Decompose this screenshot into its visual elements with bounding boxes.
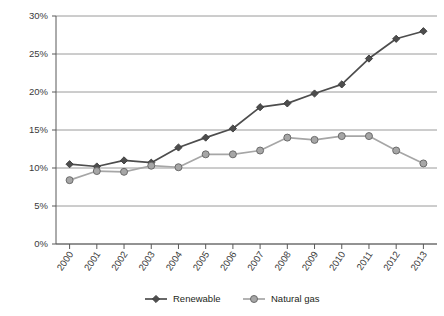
data-point-marker xyxy=(229,151,236,158)
legend-marker xyxy=(152,295,159,302)
legend-item-natural-gas[interactable]: Natural gas xyxy=(243,293,320,304)
data-point-marker xyxy=(202,134,209,141)
x-axis-tick-label: 2009 xyxy=(299,249,320,273)
data-point-marker xyxy=(420,160,427,167)
data-point-marker xyxy=(202,151,209,158)
data-point-marker xyxy=(148,162,155,169)
x-axis-tick-labels: 2000200120022003200420052006200720082009… xyxy=(54,249,429,273)
data-point-marker xyxy=(93,168,100,175)
y-axis-tick-label: 20% xyxy=(29,86,49,97)
data-point-marker xyxy=(311,136,318,143)
x-axis-tick-label: 2000 xyxy=(54,249,75,273)
data-point-marker xyxy=(175,164,182,171)
y-axis-ticks xyxy=(52,16,56,244)
y-axis-tick-label: 15% xyxy=(29,124,49,135)
x-axis-tick-label: 2008 xyxy=(272,249,293,273)
data-point-marker xyxy=(175,144,182,151)
y-axis-tick-label: 30% xyxy=(29,10,49,21)
x-axis-tick-label: 2012 xyxy=(381,249,402,273)
data-point-marker xyxy=(284,100,291,107)
x-axis-tick-label: 2007 xyxy=(245,249,266,273)
series-line xyxy=(70,31,424,166)
line-chart: 0%5%10%15%20%25%30% 20002001200220032004… xyxy=(0,0,444,316)
data-point-marker xyxy=(393,147,400,154)
x-axis-tick-label: 2013 xyxy=(408,249,429,273)
data-point-marker xyxy=(121,168,128,175)
data-point-marker xyxy=(311,90,318,97)
y-axis-tick-label: 10% xyxy=(29,162,49,173)
legend-item-renewable[interactable]: Renewable xyxy=(145,293,221,304)
x-axis-tick-label: 2004 xyxy=(163,249,184,273)
legend-label: Renewable xyxy=(173,293,221,304)
x-axis-ticks xyxy=(70,244,424,249)
series-layer xyxy=(66,28,427,184)
x-axis-tick-label: 2005 xyxy=(190,249,211,273)
chart-container: 0%5%10%15%20%25%30% 20002001200220032004… xyxy=(0,0,444,316)
data-point-marker xyxy=(257,147,264,154)
x-axis-tick-label: 2001 xyxy=(82,249,103,273)
data-point-marker xyxy=(120,157,127,164)
data-point-marker xyxy=(66,177,73,184)
legend-label: Natural gas xyxy=(271,293,320,304)
data-point-marker xyxy=(66,161,73,168)
x-axis-tick-label: 2002 xyxy=(109,249,130,273)
series-renewable xyxy=(66,28,427,170)
y-axis-tick-label: 0% xyxy=(34,238,48,249)
x-axis-tick-label: 2011 xyxy=(354,249,375,272)
y-axis-group: 0%5%10%15%20%25%30% xyxy=(29,10,56,249)
y-axis-tick-label: 5% xyxy=(34,200,48,211)
data-point-marker xyxy=(284,134,291,141)
x-axis-tick-label: 2003 xyxy=(136,249,157,273)
data-point-marker xyxy=(338,133,345,140)
series-natural-gas xyxy=(66,133,427,184)
legend-marker xyxy=(251,296,258,303)
x-axis-tick-label: 2006 xyxy=(218,249,239,273)
y-axis-tick-label: 25% xyxy=(29,48,49,59)
x-axis-tick-label: 2010 xyxy=(326,249,347,273)
chart-legend: RenewableNatural gas xyxy=(145,293,320,304)
x-axis-group: 2000200120022003200420052006200720082009… xyxy=(54,244,437,273)
y-axis-tick-labels: 0%5%10%15%20%25%30% xyxy=(29,10,49,249)
data-point-marker xyxy=(420,28,427,35)
data-point-marker xyxy=(365,133,372,140)
